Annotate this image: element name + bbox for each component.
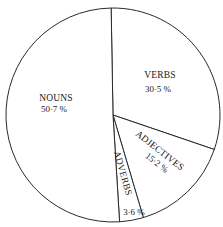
slice-label-verbs: VERBS [144,70,176,80]
slice-label-nouns: NOUNS [39,93,73,103]
slice-value-adverbs: 3·6 % [123,207,145,217]
pie-slice-nouns [6,8,120,222]
pie-slices [6,8,220,222]
pie-chart: NOUNS 50·7 % VERBS 30·5 % ADJECTIVES 15·… [0,0,223,227]
slice-value-nouns: 50·7 % [41,104,68,114]
slice-value-verbs: 30·5 % [145,84,172,94]
